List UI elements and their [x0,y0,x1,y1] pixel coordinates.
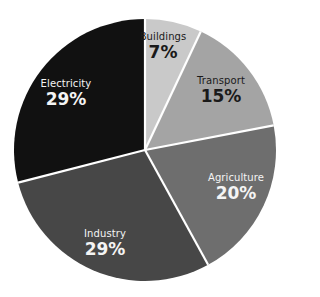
label-agriculture-value: 20% [208,185,264,202]
label-industry-value: 29% [84,241,126,258]
label-electricity-name: Electricity [41,79,92,89]
label-industry-name: Industry [84,229,126,239]
label-agriculture: Agriculture 20% [208,173,264,202]
label-buildings-name: Buildings [140,32,187,42]
label-buildings: Buildings 7% [140,32,187,61]
label-electricity: Electricity 29% [41,79,92,108]
label-transport: Transport 15% [197,76,245,105]
label-agriculture-name: Agriculture [208,173,264,183]
label-industry: Industry 29% [84,229,126,258]
label-buildings-value: 7% [140,44,187,61]
label-transport-name: Transport [197,76,245,86]
label-transport-value: 15% [197,88,245,105]
label-electricity-value: 29% [41,91,92,108]
